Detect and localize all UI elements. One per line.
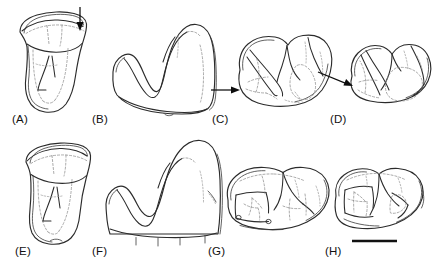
panel-label-g: (G) [208,245,225,257]
panel-label-h: (H) [325,245,342,257]
figure-plate: (A) (B) [0,0,445,270]
panel-label-a: (A) [12,113,28,125]
plate-background [0,0,445,270]
panel-label-b: (B) [92,113,108,125]
panel-label-c: (C) [212,113,229,125]
panel-label-d: (D) [330,113,347,125]
plate-canvas: (A) (B) [0,0,445,270]
panel-label-f: (F) [92,245,107,257]
panel-label-e: (E) [15,245,31,257]
